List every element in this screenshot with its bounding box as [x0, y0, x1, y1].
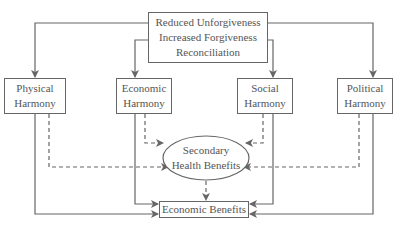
social-harmony-box: Social Harmony — [237, 78, 293, 114]
political-harmony-line-1: Political — [347, 81, 384, 96]
secondary-health-benefits-ellipse: Secondary Health Benefits — [163, 136, 249, 180]
secondary-line-1: Secondary — [183, 143, 229, 158]
secondary-line-2: Health Benefits — [172, 158, 241, 173]
social-harmony-line-2: Harmony — [244, 96, 286, 111]
economic-harmony-line-2: Harmony — [123, 96, 165, 111]
economic-benefits-label: Economic Benefits — [162, 202, 246, 217]
physical-harmony-box: Physical Harmony — [4, 78, 66, 114]
economic-benefits-box: Economic Benefits — [159, 201, 249, 218]
political-harmony-line-2: Harmony — [344, 96, 386, 111]
top-box-forgiveness: Reduced Unforgiveness Increased Forgiven… — [148, 12, 268, 63]
top-box-line-3: Reconciliation — [176, 45, 240, 60]
physical-harmony-line-2: Harmony — [14, 96, 56, 111]
top-box-line-1: Reduced Unforgiveness — [155, 15, 260, 30]
political-harmony-box: Political Harmony — [337, 78, 393, 114]
social-harmony-line-1: Social — [251, 81, 279, 96]
physical-harmony-line-1: Physical — [16, 81, 53, 96]
top-box-line-2: Increased Forgiveness — [159, 30, 257, 45]
economic-harmony-box: Economic Harmony — [116, 78, 172, 114]
economic-harmony-line-1: Economic — [122, 81, 167, 96]
